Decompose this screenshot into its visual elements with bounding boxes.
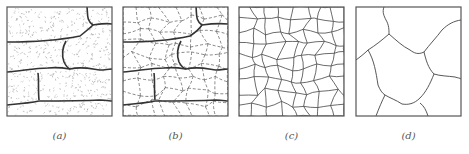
stipple-mark (11, 97, 12, 98)
nucleus-boundary (205, 44, 208, 55)
stipple-mark (82, 75, 83, 76)
nucleus-boundary (200, 31, 208, 44)
stipple-mark (72, 83, 73, 84)
grain-boundary (331, 106, 334, 116)
stipple-mark (50, 22, 52, 23)
grain-boundary (315, 55, 317, 64)
stipple-mark (68, 77, 69, 78)
stipple-mark (25, 33, 27, 34)
stipple-mark (99, 33, 100, 35)
stipple-mark (74, 70, 75, 72)
stipple-mark (60, 21, 61, 22)
grain-boundary (291, 71, 293, 82)
stipple-mark (39, 56, 40, 57)
grain-boundary (265, 65, 278, 67)
stipple-mark (83, 95, 84, 96)
stipple-mark (82, 94, 83, 96)
nucleus-boundary (138, 78, 141, 96)
grain-boundary (266, 107, 267, 116)
stipple-mark (78, 63, 79, 64)
grain-boundary (278, 90, 282, 101)
stipple-mark (13, 74, 14, 75)
stipple-mark (67, 95, 68, 97)
nucleus-boundary (176, 7, 182, 21)
grain-boundary (293, 107, 298, 116)
stipple-mark (45, 21, 46, 23)
nucleus-boundary (140, 28, 141, 39)
stipple-mark (9, 92, 10, 93)
stipple-mark (51, 75, 53, 76)
nucleus-boundary (174, 21, 182, 32)
nucleus-boundary (189, 69, 193, 76)
stipple-mark (100, 103, 101, 104)
stipple-mark (89, 61, 90, 62)
nucleus-boundary (123, 52, 132, 58)
stipple-mark (101, 96, 102, 97)
nucleus-boundary (132, 52, 149, 59)
stipple-mark (39, 14, 40, 15)
stipple-mark (68, 46, 69, 47)
stipple-mark (41, 74, 42, 75)
stipple-mark (48, 73, 49, 74)
nucleus-boundary (215, 76, 228, 82)
grain-boundary (282, 79, 292, 82)
stipple-mark (108, 20, 109, 21)
grain-boundary (266, 32, 281, 35)
stipple-mark (35, 32, 36, 33)
grain-boundary (254, 19, 258, 28)
stipple-mark (49, 90, 50, 91)
stipple-mark (78, 112, 80, 113)
stipple-mark (87, 53, 88, 54)
grain-boundary (258, 88, 265, 95)
stipple-mark (22, 35, 23, 36)
stipple-mark (17, 32, 18, 33)
stipple-mark (96, 106, 97, 108)
stipple-mark (78, 42, 79, 43)
stipple-mark (51, 18, 52, 19)
stipple-mark (55, 94, 56, 95)
stipple-mark (29, 52, 30, 53)
stipple-mark (48, 97, 49, 98)
nucleus-boundary (219, 47, 222, 54)
stipple-mark (77, 32, 78, 33)
stipple-mark (89, 93, 90, 94)
grain-boundary (331, 64, 344, 66)
nucleus-boundary (136, 96, 140, 107)
stipple-mark (109, 94, 110, 95)
nucleus-boundary (157, 88, 166, 96)
stipple-mark (73, 93, 74, 94)
stipple-mark (72, 85, 74, 86)
grain-boundary (239, 17, 258, 19)
panel-label-b: (b) (123, 130, 228, 141)
grain-boundary (278, 7, 279, 17)
grain-boundary (308, 7, 311, 18)
grain-boundary (278, 17, 281, 32)
nucleus-boundary (174, 32, 192, 34)
grain-boundary (282, 101, 293, 107)
stipple-mark (98, 13, 99, 14)
stipple-mark (103, 30, 104, 31)
grain-boundary (329, 76, 344, 77)
nucleus-boundary (138, 68, 141, 78)
grain-boundary (250, 7, 258, 19)
panel-c (238, 7, 344, 117)
stipple-mark (97, 65, 98, 66)
nucleus-boundary (149, 58, 165, 59)
grain-boundaries-original (123, 7, 228, 105)
stipple-mark (106, 11, 107, 12)
stipple-mark (102, 31, 104, 32)
grain-boundary (317, 64, 331, 66)
nucleus-boundary (204, 15, 222, 19)
grain-boundary (277, 41, 286, 59)
grain-boundary (269, 77, 282, 79)
stipple-mark (28, 94, 29, 95)
nucleus-boundary (149, 43, 155, 58)
nucleus-boundary (186, 103, 206, 107)
stipple-mark (9, 106, 10, 107)
nucleus-boundary (205, 90, 208, 107)
stipple-mark (64, 102, 65, 103)
grain-boundary (331, 53, 334, 66)
stipple-mark (79, 50, 80, 52)
nucleus-boundary (179, 78, 183, 91)
panel-a (7, 7, 112, 116)
